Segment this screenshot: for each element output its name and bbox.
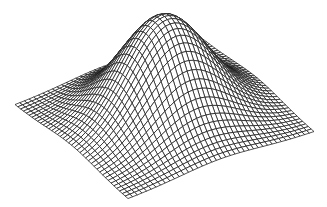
gaussian-wireframe-surface bbox=[0, 0, 327, 207]
surface-plot: 3D wireframe mesh of a 2D Gaussian bump … bbox=[0, 0, 327, 207]
wireframe-mesh bbox=[15, 14, 314, 199]
